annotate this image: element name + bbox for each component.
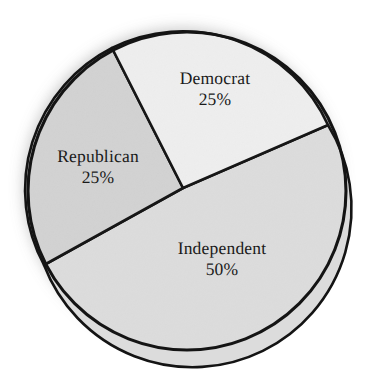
pie-label-democrat-name: Democrat	[150, 68, 280, 89]
pie-label-republican-name: Republican	[28, 146, 168, 167]
pie-chart-figure: Democrat 25% Republican 25% Independent …	[0, 0, 375, 383]
pie-label-republican-value: 25%	[28, 167, 168, 188]
pie-label-republican: Republican 25%	[28, 146, 168, 187]
page-root: Democrat 25% Republican 25% Independent …	[0, 0, 375, 383]
pie-label-democrat-value: 25%	[150, 89, 280, 110]
pie-label-democrat: Democrat 25%	[150, 68, 280, 109]
pie-label-independent-value: 50%	[142, 259, 302, 280]
pie-chart-svg	[0, 0, 375, 383]
pie-label-independent: Independent 50%	[142, 238, 302, 279]
pie-label-independent-name: Independent	[142, 238, 302, 259]
